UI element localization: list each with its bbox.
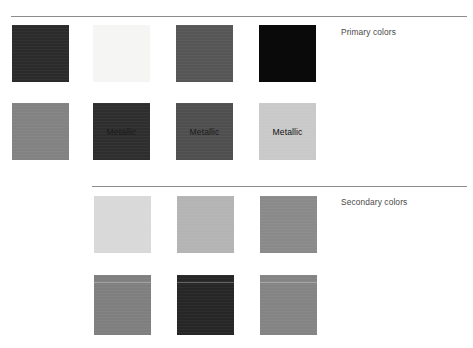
swatch-primary-2[interactable] (93, 25, 150, 82)
swatch-primary-3[interactable] (176, 25, 233, 82)
swatch-primary-8-metallic[interactable]: Metallic (259, 103, 316, 160)
swatch-secondary-6[interactable] (260, 275, 317, 335)
swatch-primary-5[interactable] (12, 103, 69, 160)
swatch-secondary-3[interactable] (260, 196, 317, 253)
swatch-primary-4[interactable] (259, 25, 316, 82)
color-palette-page: Primary colors Metallic Metallic Metalli… (0, 0, 473, 348)
swatch-primary-1[interactable] (12, 25, 69, 82)
swatch-caption-metallic: Metallic (259, 127, 316, 136)
swatch-primary-6-metallic[interactable]: Metallic (93, 103, 150, 160)
swatch-primary-7-metallic[interactable]: Metallic (176, 103, 233, 160)
swatch-secondary-4[interactable] (94, 275, 151, 335)
primary-section-label: Primary colors (341, 28, 396, 36)
swatch-secondary-1[interactable] (94, 196, 151, 253)
swatch-caption-metallic: Metallic (93, 127, 150, 136)
swatch-secondary-2[interactable] (177, 196, 234, 253)
primary-section-divider (11, 16, 467, 17)
swatch-secondary-5[interactable] (177, 275, 234, 335)
secondary-section-label: Secondary colors (341, 198, 407, 206)
swatch-caption-metallic: Metallic (176, 127, 233, 136)
secondary-section-divider (92, 186, 467, 187)
